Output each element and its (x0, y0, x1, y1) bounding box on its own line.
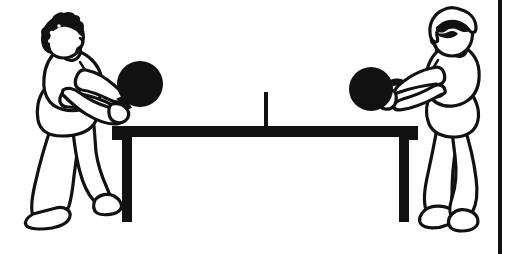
table-tennis-illustration (0, 0, 511, 254)
right-table-leg (399, 137, 409, 222)
table-edge-shadow-right (404, 135, 418, 140)
table-edge-shadow-left (112, 135, 126, 140)
table-top (112, 126, 418, 137)
right-edge-rule (498, 0, 502, 254)
left-player-hair-curl-c (64, 13, 76, 25)
left-player-hair-curl-b (52, 14, 64, 26)
right-player-front-foot (448, 210, 477, 231)
right-paddle (349, 67, 393, 111)
left-player-hair-highlight-c (57, 24, 61, 28)
table-net (264, 92, 268, 128)
left-player-front-foot (94, 194, 122, 214)
left-player-hair-highlight-b (48, 39, 52, 43)
left-player-hair-curl-a (41, 27, 51, 37)
left-player-hair-curl-d (74, 21, 84, 31)
left-table-leg (122, 137, 132, 222)
illustration-canvas: Two people playing table tennis on oppos… (0, 0, 511, 254)
left-player-hair-highlight-a (50, 31, 55, 36)
